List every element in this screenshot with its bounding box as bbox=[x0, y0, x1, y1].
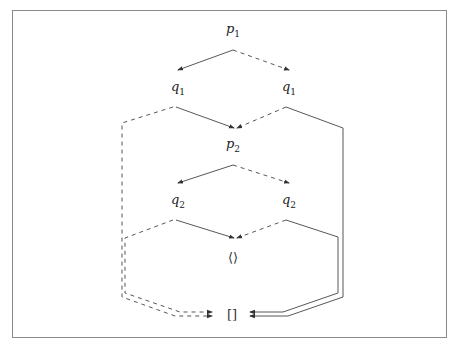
node-tuple: ⟨⟩ bbox=[228, 250, 238, 265]
edge-p2-q2-left bbox=[178, 165, 233, 183]
edge-p1-q1-left bbox=[178, 50, 233, 70]
edge-q1-left-list bbox=[122, 107, 212, 316]
edge-q2-left-list bbox=[125, 220, 212, 312]
diagram-canvas bbox=[0, 0, 461, 350]
node-q1-right: q1 bbox=[282, 79, 296, 97]
node-q1-left: q1 bbox=[171, 79, 185, 97]
edge-q2-left-tuple bbox=[176, 220, 234, 238]
node-q2-left: q2 bbox=[171, 192, 185, 210]
edge-q2-right-list bbox=[250, 220, 338, 312]
edge-q1-right-p2 bbox=[237, 107, 286, 128]
edge-q2-right-tuple bbox=[237, 220, 286, 238]
edge-q1-right-list bbox=[250, 107, 343, 316]
node-p1: p1 bbox=[226, 21, 240, 39]
node-list: [] bbox=[227, 307, 237, 322]
node-p2: p2 bbox=[226, 136, 240, 154]
edge-p2-q2-right bbox=[233, 165, 289, 183]
edge-q1-left-p2 bbox=[176, 107, 234, 128]
node-q2-right: q2 bbox=[282, 192, 296, 210]
edge-p1-q1-right bbox=[233, 50, 289, 70]
